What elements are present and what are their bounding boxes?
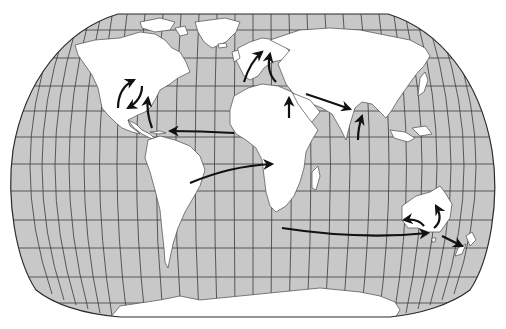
world-map bbox=[0, 0, 506, 329]
